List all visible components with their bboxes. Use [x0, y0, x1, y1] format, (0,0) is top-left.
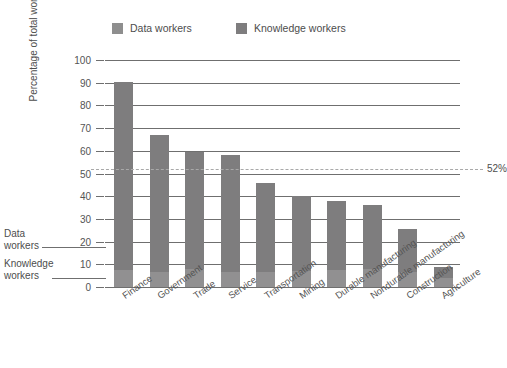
gridline-70: [105, 128, 460, 129]
bar-government: [150, 135, 169, 287]
bar-segment-knowledge-workers: [256, 183, 275, 273]
callout-leader-line-knowledge-workers: [52, 278, 106, 279]
y-tick-90: [96, 83, 104, 84]
bar-segment-knowledge-workers: [114, 82, 133, 270]
bar-finance: [114, 82, 133, 287]
y-tick-10: [96, 264, 104, 265]
bar-service: [221, 155, 240, 287]
y-tick-30: [96, 219, 104, 220]
y-tick-0: [96, 287, 104, 288]
reference-line-52: [91, 169, 483, 170]
x-axis-labels: FinanceGovernmentTradeServiceTransportat…: [105, 0, 485, 76]
y-tick-100: [96, 60, 104, 61]
y-tick-label-70: 70: [61, 128, 91, 129]
gridline-80: [105, 105, 460, 106]
callout-data-workers: Data workers: [4, 228, 56, 252]
y-tick-70: [96, 128, 104, 129]
y-tick-50: [96, 174, 104, 175]
y-tick-label-0: 0: [61, 287, 91, 288]
y-axis-title: Percentage of total work force: [28, 0, 39, 110]
bar-segment-knowledge-workers: [327, 201, 346, 270]
y-tick-label-50: 50: [61, 174, 91, 175]
callout-data-workers-line1: Data: [4, 228, 56, 240]
y-tick-label-30: 30: [61, 219, 91, 220]
y-tick-40: [96, 196, 104, 197]
gridline-90: [105, 83, 460, 84]
y-tick-label-100: 100: [61, 60, 91, 61]
callout-data-workers-line2: workers: [4, 240, 56, 252]
reference-line-label-52: 52%: [487, 163, 507, 174]
y-tick-label-60: 60: [61, 151, 91, 152]
y-tick-60: [96, 151, 104, 152]
y-tick-label-20: 20: [61, 242, 91, 243]
y-tick-label-90: 90: [61, 83, 91, 84]
bar-segment-knowledge-workers: [221, 155, 240, 272]
y-tick-label-10: 10: [61, 264, 91, 265]
callout-knowledge-workers-line1: Knowledge: [4, 258, 66, 270]
y-tick-80: [96, 105, 104, 106]
bar-segment-knowledge-workers: [150, 135, 169, 272]
y-tick-label-40: 40: [61, 196, 91, 197]
y-tick-20: [96, 242, 104, 243]
bar-transportation: [256, 183, 275, 287]
callout-knowledge-workers-line2: workers: [4, 270, 66, 282]
bar-durable-manufacturing: [327, 201, 346, 287]
y-tick-label-80: 80: [61, 105, 91, 106]
callout-leader-line-data-workers: [42, 247, 106, 248]
